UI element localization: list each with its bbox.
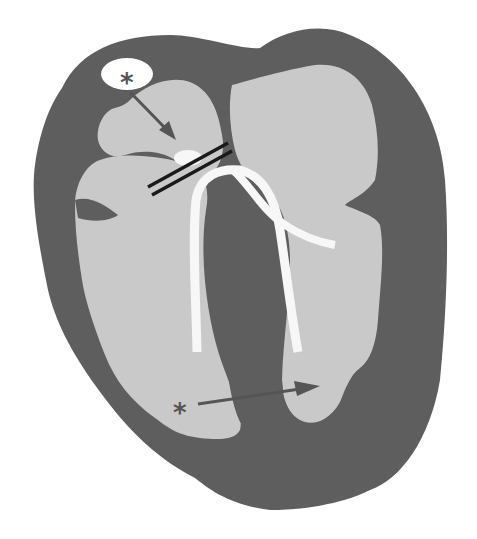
marker-top: *: [120, 68, 134, 98]
heart-diagram: * *: [0, 0, 477, 539]
marker-bottom: *: [173, 398, 187, 428]
